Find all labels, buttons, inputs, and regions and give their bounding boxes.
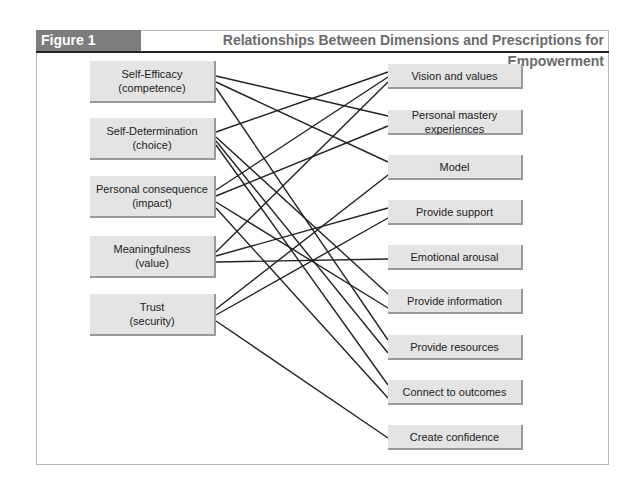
prescription-provide-information: Provide information xyxy=(388,289,523,314)
prescription-vision-and-values: Vision and values xyxy=(388,64,523,89)
prescription-model: Model xyxy=(388,155,523,180)
dimension-personal-consequence: Personal consequence(impact) xyxy=(90,176,216,218)
dimension-meaningfulness: Meaningfulness(value) xyxy=(90,236,216,278)
dimension-name: Self-Efficacy xyxy=(122,68,183,80)
line-pc-information xyxy=(216,202,388,308)
line-m-vision xyxy=(216,82,388,252)
dimension-name: Meaningfulness xyxy=(113,243,190,255)
dimension-subtitle: (security) xyxy=(129,315,174,327)
dimension-subtitle: (choice) xyxy=(132,139,171,151)
prescription-personal-mastery: Personal mastery experiences xyxy=(388,110,523,135)
dimension-self-efficacy: Self-Efficacy(competence) xyxy=(90,61,216,103)
dimension-trust: Trust(security) xyxy=(90,294,216,336)
line-t-model xyxy=(216,175,388,309)
prescription-provide-support: Provide support xyxy=(388,200,523,225)
line-sd-vision xyxy=(216,72,388,132)
prescription-connect-to-outcomes: Connect to outcomes xyxy=(388,380,523,405)
dimension-self-determination: Self-Determination(choice) xyxy=(90,118,216,160)
dimension-name: Trust xyxy=(140,301,165,313)
line-sd-outcomes xyxy=(216,145,388,385)
line-m-arousal xyxy=(216,259,388,262)
dimension-name: Self-Determination xyxy=(106,125,197,137)
line-se-mastery xyxy=(216,76,388,116)
dimension-subtitle: (impact) xyxy=(132,197,172,209)
line-t-confidence xyxy=(216,321,388,438)
dimension-subtitle: (competence) xyxy=(118,82,185,94)
prescription-provide-resources: Provide resources xyxy=(388,335,523,360)
prescription-emotional-arousal: Emotional arousal xyxy=(388,245,523,270)
dimension-subtitle: (value) xyxy=(135,257,169,269)
prescription-create-confidence: Create confidence xyxy=(388,425,523,450)
dimension-name: Personal consequence xyxy=(96,183,208,195)
